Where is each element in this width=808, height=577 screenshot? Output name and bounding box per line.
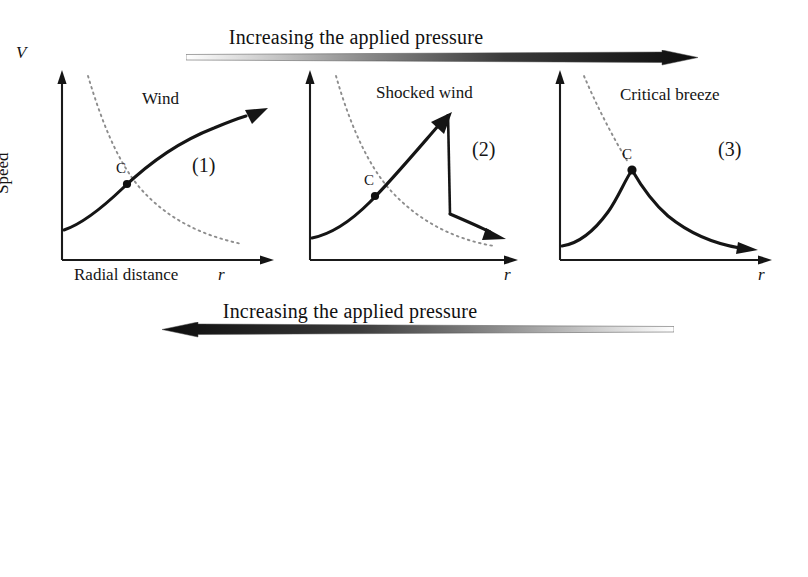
panel-2-critical-label: C — [364, 172, 374, 188]
panel-2-postshock-curve — [450, 214, 490, 232]
panel-2-number: (2) — [472, 138, 495, 161]
panel-3-critical-point — [627, 165, 636, 174]
pressure-arrow-left-icon — [144, 322, 674, 338]
panel-2-wind-preshock-curve — [312, 126, 438, 238]
panel-3-critical-label: C — [622, 146, 632, 162]
panel-2-flow-label: Shocked wind — [376, 83, 473, 102]
panel-1-critical-point — [123, 180, 131, 188]
panel-3-critical-breeze: C Critical breeze (3) r — [540, 64, 802, 280]
panel-2-critical-point — [371, 192, 379, 200]
panel-1-y-axis-label: Speed — [0, 152, 12, 194]
panel-1-critical-label: C — [116, 160, 126, 176]
panel-2-x-axis-symbol: r — [504, 265, 511, 284]
top-row: Increasing the applied pressure — [0, 0, 808, 288]
panel-1-wind: C Wind (1) Radial distance r V Speed — [28, 64, 290, 280]
top-band-title: Increasing the applied pressure — [26, 26, 686, 49]
figure-root: Increasing the applied pressure — [0, 0, 808, 577]
bottom-band-title: Increasing the applied pressure — [20, 300, 680, 323]
panel-3-x-axis-symbol: r — [758, 265, 765, 284]
panel-1-wind-curve — [64, 116, 246, 230]
panel-1-x-axis-symbol: r — [218, 265, 225, 284]
panel-1-flow-label: Wind — [142, 89, 180, 108]
panel-2-shock-front — [448, 114, 450, 214]
panel-3-breeze-curve — [562, 170, 740, 248]
panel-1-flow-arrow-icon — [245, 108, 268, 124]
panel-3-flow-label: Critical breeze — [620, 85, 720, 104]
panel-1-x-axis-label: Radial distance — [74, 265, 178, 284]
panel-2-flow-arrow-lower-icon — [482, 228, 506, 240]
panel-3-number: (3) — [718, 138, 741, 161]
panel-1-number: (1) — [192, 154, 215, 177]
panel-2-shocked-wind: C Shocked wind (2) r — [292, 64, 554, 280]
bottom-row: Increasing the applied pressure — [0, 288, 808, 577]
